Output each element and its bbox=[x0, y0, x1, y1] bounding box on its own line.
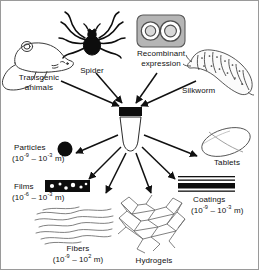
arrow-recombinant-to-silk bbox=[136, 73, 157, 103]
particles-ten-max: 10 bbox=[38, 154, 47, 163]
arrow-silk-to-particles bbox=[76, 135, 118, 153]
label-coatings: Coatings bbox=[193, 195, 225, 205]
label-films-range: (10-6 – 10-3 m) bbox=[12, 193, 64, 203]
coating-icon bbox=[178, 176, 235, 192]
fibers-close: m) bbox=[91, 255, 103, 264]
fibers-dash: – bbox=[70, 255, 79, 264]
label-transgenic-animals-line1: Transgenic bbox=[3, 73, 75, 83]
fibers-ten-max: 10 bbox=[79, 255, 88, 264]
fibers-ten-min: 10 bbox=[56, 255, 65, 264]
label-tablets: Tablets bbox=[214, 158, 240, 168]
label-fibers-range: (10-9 – 102 m) bbox=[42, 255, 114, 265]
fiber-icon bbox=[35, 207, 113, 244]
films-ten-min: 10 bbox=[15, 193, 24, 202]
label-particles-range: (10-9 – 10-3 m) bbox=[12, 154, 64, 164]
label-recombinant-expression-line1: Recombinant bbox=[121, 49, 201, 59]
label-recombinant-expression-line2: expression bbox=[121, 59, 201, 69]
label-films: Films bbox=[14, 182, 34, 192]
diagram-canvas bbox=[1, 1, 259, 270]
films-ten-max: 10 bbox=[38, 193, 47, 202]
label-hydrogels: Hydrogels bbox=[123, 256, 185, 266]
silk-diagram-figure: Transgenic animals Spider Recombinant ex… bbox=[0, 0, 259, 270]
arrow-silk-to-tablets bbox=[144, 135, 197, 156]
vial-icon bbox=[119, 107, 142, 151]
label-particles: Particles bbox=[14, 143, 46, 153]
particles-dash: – bbox=[29, 154, 38, 163]
label-silkworm: Silkworm bbox=[182, 86, 215, 96]
coatings-ten-min: 10 bbox=[194, 206, 203, 215]
hydrogel-icon bbox=[118, 195, 185, 253]
label-spider: Spider bbox=[67, 66, 117, 76]
label-transgenic-animals-line2: animals bbox=[3, 83, 75, 93]
coatings-ten-max: 10 bbox=[217, 206, 226, 215]
input-arrows bbox=[61, 73, 196, 106]
petri-dish-icon bbox=[137, 15, 185, 47]
label-silk: Silk bbox=[114, 119, 147, 129]
coatings-dash: – bbox=[208, 206, 217, 215]
particles-close: m) bbox=[53, 154, 65, 163]
arrow-silk-to-hydrogels bbox=[136, 153, 151, 193]
arrow-silk-to-coatings bbox=[142, 147, 175, 179]
film-icon bbox=[45, 180, 90, 192]
films-dash: – bbox=[29, 193, 38, 202]
label-transgenic-animals: Transgenic animals bbox=[3, 73, 75, 92]
label-recombinant-expression: Recombinant expression bbox=[121, 49, 201, 68]
films-close: m) bbox=[53, 193, 65, 202]
coatings-close: m) bbox=[232, 206, 244, 215]
tablet-icon bbox=[198, 122, 253, 161]
label-fibers: Fibers bbox=[50, 244, 106, 254]
spider-icon bbox=[59, 12, 125, 58]
label-coatings-range: (10-9 – 10-3 m) bbox=[191, 206, 243, 216]
particles-ten-min: 10 bbox=[15, 154, 24, 163]
